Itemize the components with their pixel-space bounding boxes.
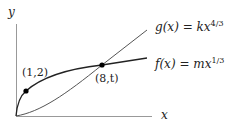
g-equation-label: g(x) = kx4/3 — [155, 20, 223, 33]
g-exponent: 4/3 — [211, 19, 224, 28]
f-exponent: 1/3 — [211, 56, 224, 65]
y-axis-label: y — [8, 6, 15, 18]
f-coef: m — [193, 57, 204, 71]
g-func: g(x) — [155, 20, 179, 34]
g-equals: = — [183, 20, 193, 34]
point-8-t — [99, 62, 104, 67]
g-var: x — [204, 20, 211, 34]
point-label-1-2: (1,2) — [22, 67, 48, 78]
f-equals: = — [179, 57, 189, 71]
g-coef: k — [197, 20, 204, 34]
point-label-8-t: (8,t) — [95, 73, 119, 84]
f-func: f(x) — [155, 57, 176, 71]
f-equation-label: f(x) = mx1/3 — [155, 57, 224, 70]
x-axis-label: x — [161, 109, 168, 121]
point-1-2 — [23, 88, 28, 93]
